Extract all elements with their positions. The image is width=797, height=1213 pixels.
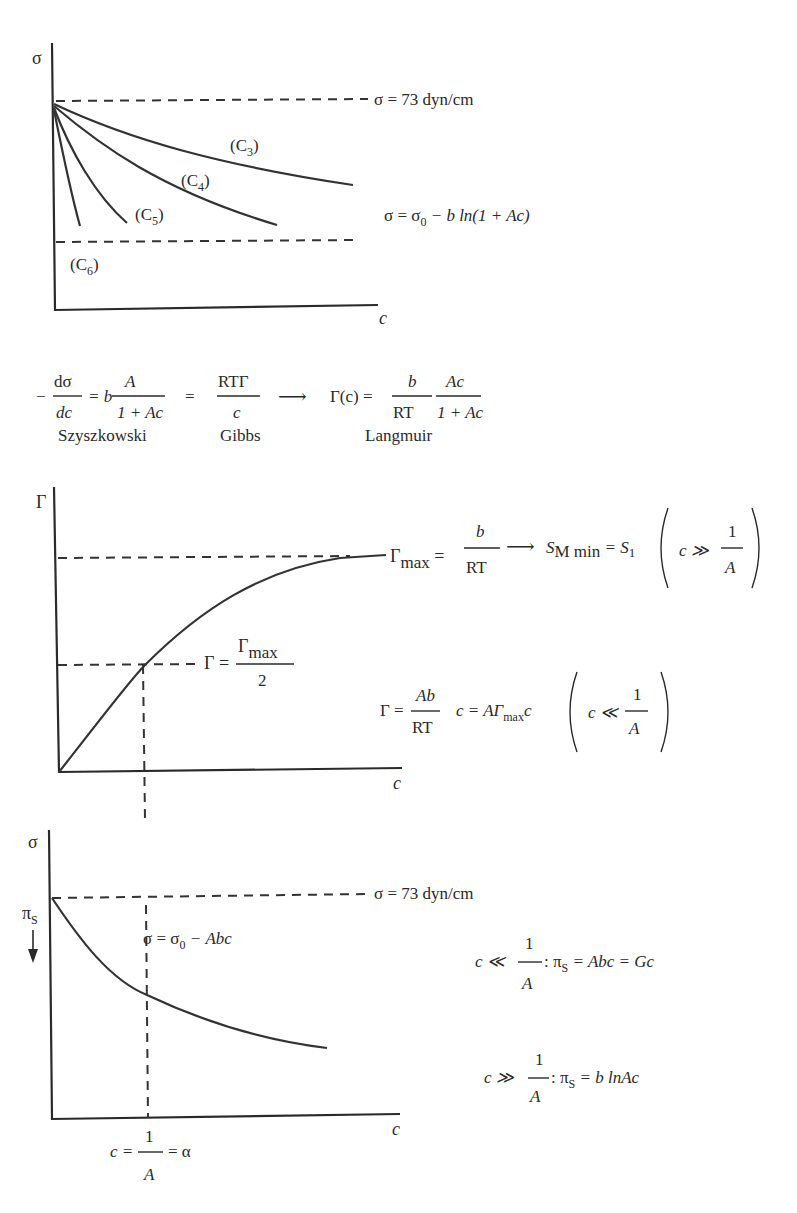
svg-text:A: A bbox=[124, 372, 136, 391]
svg-text:= α: = α bbox=[168, 1142, 191, 1161]
x-axis-label: c bbox=[392, 1119, 400, 1139]
reference-line-73 bbox=[52, 894, 368, 898]
arrow-down-icon bbox=[28, 949, 38, 963]
low-c-equation: : πS = Abc = Gc bbox=[544, 952, 655, 975]
svg-text:1: 1 bbox=[145, 1127, 154, 1146]
label-c3: (C3) bbox=[230, 136, 259, 159]
panel-surface-pressure: σ c σ = 73 dyn/cm πS σ = σ0 − Abc c = 1 … bbox=[22, 830, 655, 1184]
label-szyszkowski: Szyszkowski bbox=[58, 426, 147, 445]
svg-text:1: 1 bbox=[535, 1050, 544, 1069]
arrow-icon: ⟶ bbox=[278, 385, 307, 407]
y-axis-label: Γ bbox=[36, 492, 46, 512]
svg-text:c =: c = bbox=[110, 1142, 133, 1161]
svg-text:Γ(c) =: Γ(c) = bbox=[330, 387, 373, 406]
surface-pressure-label: πS bbox=[22, 903, 38, 927]
label-langmuir: Langmuir bbox=[365, 426, 432, 445]
svg-text:b: b bbox=[408, 372, 417, 391]
svg-text:1 + Ac: 1 + Ac bbox=[437, 403, 484, 422]
svg-text:dc: dc bbox=[56, 403, 73, 422]
svg-text:1: 1 bbox=[728, 522, 737, 541]
linear-equation: c = AΓmaxc bbox=[456, 701, 532, 724]
axes bbox=[49, 830, 400, 1119]
curve-c6 bbox=[54, 110, 80, 226]
svg-text:c ≫: c ≫ bbox=[484, 1068, 515, 1087]
svg-text:1: 1 bbox=[525, 934, 534, 953]
half-gamma-line bbox=[58, 664, 198, 665]
panel-langmuir-isotherm: Γ c Γmax = b RT ⟶ SM min = S1 c ≫ 1 A Γ … bbox=[36, 487, 759, 820]
svg-text:c ≪: c ≪ bbox=[588, 703, 620, 722]
arrow-icon: ⟶ bbox=[506, 535, 535, 557]
half-point-drop-line bbox=[143, 665, 145, 820]
reference-label: σ = 73 dyn/cm bbox=[374, 90, 474, 109]
label-c5: (C5) bbox=[135, 205, 164, 228]
szyszkowski-equation: σ = σ0 − b ln(1 + Ac) bbox=[384, 206, 530, 229]
svg-text:c: c bbox=[233, 403, 241, 422]
svg-text:A: A bbox=[724, 558, 736, 577]
svg-text:1 + Ac: 1 + Ac bbox=[117, 403, 164, 422]
surfactant-adsorption-figure: σ c σ = 73 dyn/cm (C3) (C4) (C5) (C6) σ … bbox=[0, 0, 797, 1213]
svg-text:b: b bbox=[476, 522, 485, 541]
svg-text:=: = bbox=[185, 387, 195, 406]
svg-text:= b: = b bbox=[88, 387, 112, 406]
min-area-equation: SM min = S1 bbox=[546, 538, 635, 561]
cmc-line bbox=[56, 240, 360, 242]
svg-text:RT: RT bbox=[466, 558, 487, 577]
gamma-max-line bbox=[58, 556, 350, 558]
half-gamma-equation: Γmax bbox=[238, 636, 278, 662]
svg-text:2: 2 bbox=[258, 671, 267, 690]
svg-text:A: A bbox=[529, 1087, 541, 1106]
linear-sigma-equation: σ = σ0 − Abc bbox=[143, 929, 232, 952]
svg-text:Ab: Ab bbox=[415, 686, 435, 705]
svg-text:Γ =: Γ = bbox=[204, 653, 229, 673]
panel-szyszkowski-plot: σ c σ = 73 dyn/cm (C3) (C4) (C5) (C6) σ … bbox=[32, 43, 530, 328]
gibbs-langmuir-equation: − dσ dc = b A 1 + Ac = RTΓ c ⟶ Γ(c) = b … bbox=[36, 372, 484, 445]
svg-text:c ≫: c ≫ bbox=[679, 541, 710, 560]
x-axis-label: c bbox=[393, 773, 401, 793]
label-gibbs: Gibbs bbox=[220, 426, 261, 445]
svg-text:RT: RT bbox=[412, 718, 433, 737]
svg-text:A: A bbox=[143, 1165, 155, 1184]
svg-text:A: A bbox=[628, 719, 640, 738]
svg-text:A: A bbox=[521, 974, 533, 993]
axes bbox=[54, 487, 402, 772]
gamma-max-equation: Γmax = bbox=[390, 546, 444, 572]
svg-text:RT: RT bbox=[393, 403, 414, 422]
y-axis-label: σ bbox=[32, 48, 42, 68]
reference-label: σ = 73 dyn/cm bbox=[374, 884, 474, 903]
pressure-curve bbox=[52, 898, 327, 1048]
svg-text:dσ: dσ bbox=[54, 372, 72, 391]
x-axis-label: c bbox=[379, 308, 387, 328]
high-c-equation: : πS = b lnAc bbox=[551, 1068, 640, 1091]
svg-text:RTΓ: RTΓ bbox=[218, 372, 249, 391]
svg-text:c ≪: c ≪ bbox=[475, 952, 507, 971]
label-c6: (C6) bbox=[70, 255, 99, 278]
svg-text:−: − bbox=[36, 387, 46, 406]
svg-text:1: 1 bbox=[633, 685, 642, 704]
svg-text:Ac: Ac bbox=[445, 372, 464, 391]
reference-line-73 bbox=[56, 99, 368, 101]
axes bbox=[52, 43, 378, 310]
y-axis-label: σ bbox=[28, 832, 38, 852]
svg-text:Γ =: Γ = bbox=[380, 701, 404, 720]
